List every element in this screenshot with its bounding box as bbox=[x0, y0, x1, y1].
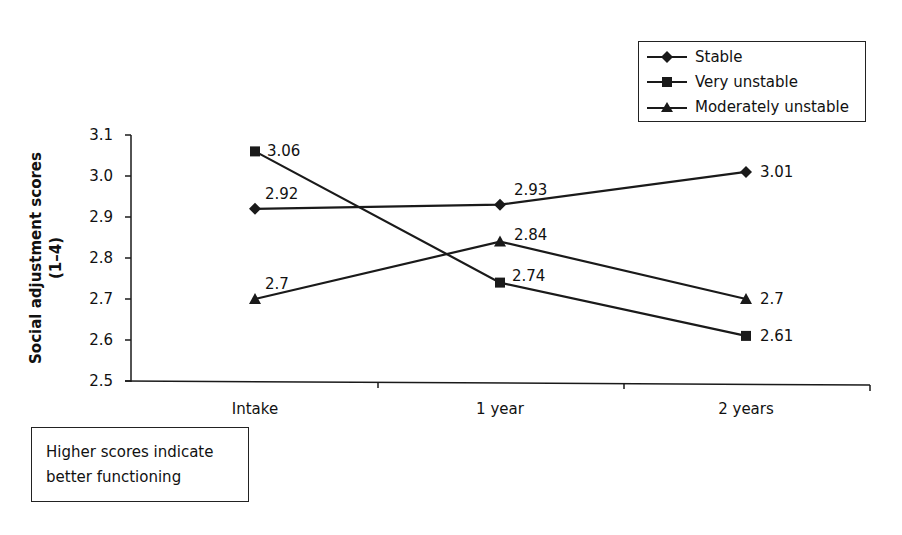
legend-item-stable: Stable bbox=[645, 46, 743, 68]
data-label: 2.84 bbox=[514, 226, 547, 244]
data-series bbox=[249, 146, 752, 341]
y-axis-title-line2: (1–4) bbox=[46, 152, 66, 364]
y-axis-title-line1: Social adjustment scores bbox=[26, 152, 46, 364]
y-tick-label: 2.7 bbox=[89, 290, 113, 308]
x-axis bbox=[125, 381, 870, 391]
x-tick-labels: Intake1 year2 years bbox=[232, 400, 774, 418]
diamond-marker-icon bbox=[249, 203, 261, 215]
series-line bbox=[255, 242, 746, 299]
y-tick-label: 2.6 bbox=[89, 331, 113, 349]
triangle-marker-icon bbox=[494, 236, 506, 247]
y-tick-label: 3.0 bbox=[89, 167, 113, 185]
square-marker-icon bbox=[741, 331, 751, 341]
data-label: 2.93 bbox=[514, 181, 547, 199]
data-label: 3.06 bbox=[267, 142, 300, 160]
y-tick-label: 3.1 bbox=[89, 126, 113, 144]
y-ticks: 2.52.62.72.82.93.03.1 bbox=[89, 126, 131, 390]
annotation-box: Higher scores indicate better functionin… bbox=[31, 427, 249, 502]
legend: Stable Very unstable Moderately unstable bbox=[638, 41, 866, 122]
x-tick-label: 2 years bbox=[718, 400, 774, 418]
data-label: 2.92 bbox=[265, 185, 298, 203]
data-labels: 2.922.933.013.062.742.612.72.842.7 bbox=[265, 142, 793, 345]
y-tick-label: 2.8 bbox=[89, 249, 113, 267]
square-marker-icon bbox=[495, 278, 505, 288]
diamond-marker-icon bbox=[645, 49, 689, 65]
y-tick-label: 2.5 bbox=[89, 372, 113, 390]
x-tick-label: 1 year bbox=[476, 400, 525, 418]
legend-label: Moderately unstable bbox=[695, 98, 849, 116]
data-label: 2.7 bbox=[760, 290, 784, 308]
data-label: 2.61 bbox=[760, 327, 793, 345]
data-label: 2.74 bbox=[512, 267, 545, 285]
legend-label: Stable bbox=[695, 48, 743, 66]
square-marker-icon bbox=[250, 146, 260, 156]
x-tick-label: Intake bbox=[232, 400, 278, 418]
y-axis-title: Social adjustment scores (1–4) bbox=[26, 152, 66, 364]
annotation-line1: Higher scores indicate bbox=[46, 440, 248, 465]
legend-label: Very unstable bbox=[695, 73, 798, 91]
legend-item-moderately-unstable: Moderately unstable bbox=[645, 96, 849, 118]
data-label: 3.01 bbox=[760, 163, 793, 181]
legend-item-very-unstable: Very unstable bbox=[645, 71, 798, 93]
data-label: 2.7 bbox=[265, 275, 289, 293]
square-marker-icon bbox=[645, 74, 689, 90]
triangle-marker-icon bbox=[645, 99, 689, 115]
annotation-line2: better functioning bbox=[46, 465, 248, 490]
y-tick-label: 2.9 bbox=[89, 208, 113, 226]
diamond-marker-icon bbox=[494, 199, 506, 211]
diamond-marker-icon bbox=[740, 166, 752, 178]
